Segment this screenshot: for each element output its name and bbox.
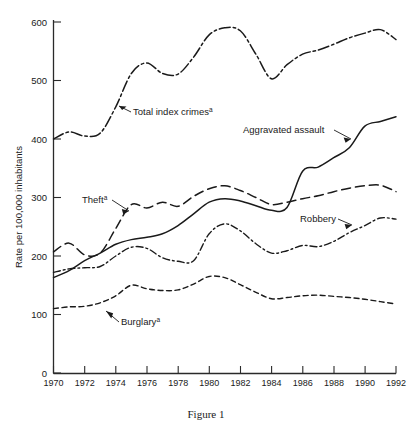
y-tick-label-400: 400 — [31, 134, 47, 145]
figure-caption: Figure 1 — [188, 408, 225, 420]
x-axis-tick-labels: 1970 1972 1974 1976 1978 1980 1982 1984 … — [43, 378, 406, 388]
series-line-burglary — [54, 276, 397, 309]
series-layer — [54, 27, 397, 308]
y-tick-label-500: 500 — [31, 75, 47, 86]
series-line-robbery — [54, 218, 397, 273]
annotation-label-burglary: Burglarya — [121, 316, 160, 328]
x-tick-label-1970: 1970 — [43, 378, 63, 388]
x-tick-label-1990: 1990 — [355, 378, 375, 388]
x-tick-label-1982: 1982 — [230, 378, 250, 388]
annotation-label-theft: Thefta — [82, 194, 108, 206]
y-axis-title: Rate per 100,000 inhabitants — [13, 146, 24, 268]
annotation-theft: Thefta — [82, 194, 129, 215]
x-tick-label-1984: 1984 — [262, 378, 282, 388]
annotation-burglary: Burglarya — [106, 311, 160, 327]
annotation-aggravated-assault: Aggravated assault — [243, 124, 351, 143]
x-tick-label-1986: 1986 — [293, 378, 313, 388]
annotation-label-robbery: Robbery — [300, 213, 336, 224]
series-line-total-index-crimes — [54, 27, 397, 139]
x-tick-label-1978: 1978 — [168, 378, 188, 388]
line-chart: 600 500 400 300 200 100 0 Rate per 100,0… — [0, 0, 413, 430]
x-tick-label-1972: 1972 — [75, 378, 95, 388]
y-tick-label-200: 200 — [31, 251, 47, 262]
y-axis-tick-labels: 600 500 400 300 200 100 0 — [31, 17, 47, 379]
y-axis-ticks — [54, 22, 62, 373]
annotation-total-index-crimes: Total index crimesa — [119, 106, 213, 118]
x-tick-label-1976: 1976 — [137, 378, 157, 388]
annotation-robbery: Robbery — [300, 213, 352, 229]
x-tick-label-1988: 1988 — [324, 378, 344, 388]
leader-line-theft — [112, 200, 129, 211]
arrowhead-burglary — [106, 311, 113, 319]
annotation-label-total-index-crimes: Total index crimesa — [133, 106, 213, 118]
y-tick-label-100: 100 — [31, 309, 47, 320]
x-tick-label-1974: 1974 — [106, 378, 126, 388]
y-tick-label-0: 0 — [42, 368, 47, 379]
annotation-label-aggravated-assault: Aggravated assault — [243, 124, 325, 135]
x-tick-label-1992: 1992 — [386, 378, 406, 388]
y-tick-label-600: 600 — [31, 17, 47, 28]
figure-container: 600 500 400 300 200 100 0 Rate per 100,0… — [0, 0, 413, 430]
x-tick-label-1980: 1980 — [199, 378, 219, 388]
y-tick-label-300: 300 — [31, 192, 47, 203]
x-axis-ticks — [54, 366, 397, 374]
leader-line-aggravated-assault — [334, 130, 351, 139]
